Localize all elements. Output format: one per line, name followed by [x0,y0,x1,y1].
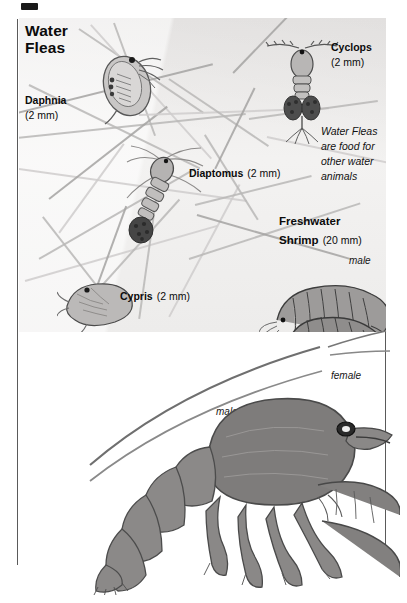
diaptomus-icon [117,144,221,254]
shrimp-male-label: male [349,255,371,266]
left-rule [17,19,18,565]
daphnia-icon [87,40,179,132]
panel-heading: Water Fleas [25,22,68,57]
label-daphnia: Daphnia (2 mm) [25,95,66,122]
shrimp-size: (20 mm) [323,234,362,246]
water-fleas-panel: Water Fleas Daphnia (2 mm) Cyclops (2 mm… [19,18,386,332]
daphnia-size: (2 mm) [25,110,66,122]
label-diaptomus: Diaptomus(2 mm) [189,163,281,181]
shrimp-name-line1: Freshwater [279,215,362,228]
cyclops-size: (2 mm) [331,57,372,69]
water-fleas-note: Water Fleas are food for other water ani… [321,124,386,184]
cyclops-name: Cyclops [331,42,372,54]
cypris-name: Cypris [120,290,153,302]
label-cypris: Cypris(2 mm) [120,286,190,304]
shrimp-name-line2: Shrimp [279,234,319,246]
panel-heading-line1: Water [25,22,68,39]
note-line-2: are food for [321,139,386,154]
diaptomus-name: Diaptomus [189,167,243,179]
page-canvas: Water Fleas Daphnia (2 mm) Cyclops (2 mm… [0,0,407,603]
panel-heading-line2: Fleas [25,39,68,56]
crayfish-icon [60,325,400,595]
note-line-4: animals [321,169,386,184]
note-line-3: other water [321,154,386,169]
cypris-size: (2 mm) [157,290,190,302]
daphnia-name: Daphnia [25,95,66,107]
diaptomus-size: (2 mm) [247,167,280,179]
note-line-1: Water Fleas [321,124,386,139]
label-freshwater-shrimp: Freshwater Shrimp(20 mm) [279,215,362,248]
label-cyclops: Cyclops (2 mm) [331,42,372,69]
registration-mark [21,3,38,10]
